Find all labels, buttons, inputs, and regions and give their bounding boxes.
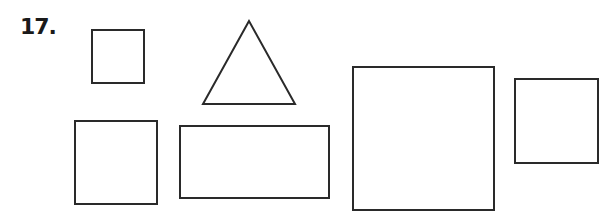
wide-rectangle	[180, 126, 329, 198]
small-square-top	[92, 30, 144, 83]
triangle	[203, 21, 295, 104]
square-right	[515, 79, 598, 163]
shapes-canvas	[0, 0, 614, 212]
large-square	[353, 67, 494, 210]
square-bottom-left	[75, 121, 157, 204]
